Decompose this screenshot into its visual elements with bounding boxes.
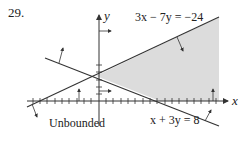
- graph: [0, 0, 243, 146]
- arrow-icon: [59, 48, 63, 63]
- equation-label-line1: 3x − 7y = −24: [135, 10, 203, 25]
- shaded-region: [96, 17, 219, 101]
- arrow-icon: [205, 110, 211, 121]
- x-axis-label: x: [232, 93, 238, 109]
- region-label: Unbounded: [49, 116, 105, 131]
- y-axis-label: y: [104, 8, 110, 24]
- arrow-icon: [32, 104, 37, 117]
- equation-label-line2: x + 3y = 8: [150, 113, 200, 128]
